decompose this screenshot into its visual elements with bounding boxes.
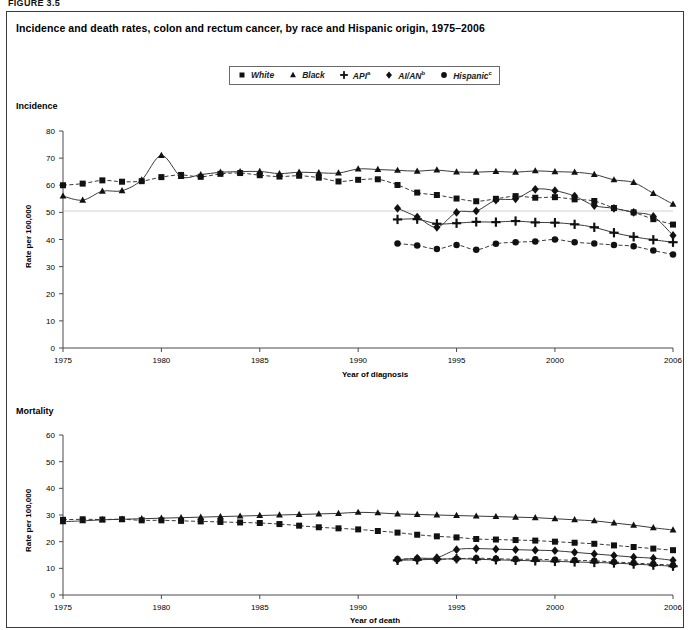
mortality-plot: 0102030405060197519801985199019952000200… (0, 424, 692, 624)
data-point-square (119, 179, 125, 185)
incidence-y-tick: 0 (51, 344, 56, 353)
series-line (63, 519, 673, 550)
data-point-triangle (276, 511, 283, 517)
data-point-triangle (433, 166, 440, 172)
data-point-diamond (551, 186, 558, 195)
data-point-diamond (571, 548, 578, 557)
mortality-y-tick: 40 (46, 484, 55, 493)
legend-label: Black (302, 70, 325, 80)
mortality-svg: 0102030405060197519801985199019952000200… (0, 424, 692, 624)
incidence-series-white (60, 170, 676, 228)
data-point-triangle (453, 512, 460, 518)
legend-marker-circle-icon (439, 70, 449, 80)
data-point-diamond (473, 207, 480, 216)
data-point-square (532, 538, 538, 544)
data-point-square (355, 177, 361, 183)
series-line (63, 155, 673, 204)
data-point-triangle (237, 512, 244, 518)
data-point-circle (394, 556, 400, 562)
data-point-plus (511, 216, 520, 225)
incidence-svg: 0102030405060708019751980198519901995200… (0, 118, 692, 370)
data-point-triangle (512, 513, 519, 519)
data-point-triangle (433, 511, 440, 517)
data-point-square (473, 198, 479, 204)
data-point-diamond (591, 550, 598, 559)
mortality-y-tick: 30 (46, 511, 55, 520)
incidence-x-tick: 1995 (448, 356, 466, 365)
data-point-circle (512, 556, 518, 562)
mortality-y-tick: 60 (46, 431, 55, 440)
data-point-square (316, 524, 322, 530)
data-point-diamond (610, 551, 617, 560)
mortality-series-black (60, 509, 677, 533)
data-point-circle (493, 241, 499, 247)
incidence-x-tick: 1975 (54, 356, 72, 365)
incidence-plot: 0102030405060708019751980198519901995200… (0, 118, 692, 370)
data-point-triangle (197, 513, 204, 519)
incidence-y-tick: 30 (46, 263, 55, 272)
mortality-x-tick: 1995 (448, 603, 466, 612)
data-point-circle (532, 556, 538, 562)
legend-label: White (251, 70, 274, 80)
legend-item-black: Black (288, 70, 325, 80)
data-point-square (316, 175, 322, 181)
data-point-triangle (532, 167, 539, 173)
data-point-plus (550, 218, 559, 227)
data-point-diamond (473, 544, 480, 553)
mortality-series-white (60, 516, 676, 553)
data-point-square (473, 536, 479, 542)
data-point-circle (512, 239, 518, 245)
data-point-triangle (492, 513, 499, 519)
data-point-triangle (178, 514, 185, 520)
data-point-diamond (453, 545, 460, 554)
data-point-square (591, 541, 597, 547)
data-point-square (493, 537, 499, 543)
data-point-circle (591, 558, 597, 564)
data-point-triangle (670, 201, 677, 207)
data-point-square (611, 542, 617, 548)
incidence-y-tick: 20 (46, 290, 55, 299)
data-point-square (434, 533, 440, 539)
mortality-x-tick: 1975 (54, 603, 72, 612)
data-point-square (395, 182, 401, 188)
data-point-square (552, 194, 558, 200)
series-line (63, 512, 673, 530)
data-point-circle (591, 240, 597, 246)
data-point-square (414, 190, 420, 196)
mortality-y-tick: 20 (46, 538, 55, 547)
data-point-square (552, 539, 558, 545)
data-point-circle (552, 236, 558, 242)
data-point-square (257, 520, 263, 526)
data-point-square (80, 181, 86, 187)
data-point-triangle (650, 190, 657, 196)
data-point-plus (590, 223, 599, 232)
data-point-square (99, 177, 105, 183)
figure-title: Incidence and death rates, colon and rec… (16, 22, 485, 34)
data-point-diamond (532, 546, 539, 555)
data-point-square (335, 178, 341, 184)
data-point-circle (650, 561, 656, 567)
mortality-x-tick: 1985 (251, 603, 269, 612)
data-point-diamond (453, 208, 460, 217)
data-point-circle (532, 238, 538, 244)
mortality-x-tick: 1990 (349, 603, 367, 612)
data-point-circle (394, 240, 400, 246)
data-point-triangle (492, 168, 499, 174)
data-point-square (395, 530, 401, 536)
legend-marker-triangle-icon (288, 70, 298, 80)
data-point-diamond (492, 545, 499, 554)
data-point-plus (452, 219, 461, 228)
incidence-y-tick: 10 (46, 317, 55, 326)
data-point-circle (453, 242, 459, 248)
data-point-circle (434, 246, 440, 252)
incidence-panel-heading: Incidence (16, 101, 58, 111)
incidence-y-tick: 40 (46, 236, 55, 245)
data-point-square (276, 521, 282, 527)
legend-label: Hispanicc (453, 70, 492, 81)
incidence-x-tick: 1980 (152, 356, 170, 365)
data-point-circle (414, 555, 420, 561)
incidence-x-tick: 1985 (251, 356, 269, 365)
data-point-circle (571, 239, 577, 245)
incidence-x-axis-label: Year of diagnosis (315, 370, 435, 379)
legend-item-api: APIa (339, 70, 371, 81)
